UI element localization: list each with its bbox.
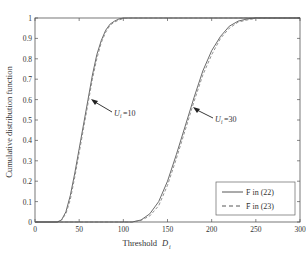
y-tick-label: 0.8 bbox=[23, 55, 33, 64]
x-tick-label: 50 bbox=[75, 225, 83, 234]
legend: F in (22) F̄ in (23) bbox=[216, 182, 295, 215]
x-axis-label: Threshold D i bbox=[123, 238, 171, 250]
y-tick-label: 1 bbox=[28, 14, 32, 23]
y-tick-label: 0.4 bbox=[23, 136, 33, 145]
annotation-u30: U i =30 bbox=[193, 107, 237, 125]
annotation-u10: U i =10 bbox=[91, 99, 136, 119]
y-tick-label: 0.3 bbox=[23, 157, 33, 166]
x-axis-title: Threshold bbox=[123, 238, 158, 248]
cdf-line-chart: 00.10.20.30.40.50.60.70.80.91 0501001502… bbox=[0, 0, 306, 257]
x-tick-label: 300 bbox=[294, 225, 306, 234]
y-tick-label: 0.7 bbox=[23, 75, 33, 84]
annotations: U i =10 U i =30 bbox=[91, 99, 237, 125]
x-axis-symbol: D bbox=[161, 238, 169, 248]
x-tick-label: 150 bbox=[162, 225, 174, 234]
legend-label-dashed: F̄ in (23) bbox=[246, 202, 274, 211]
arrow-head-icon bbox=[193, 107, 200, 113]
arrow-head-icon bbox=[91, 99, 98, 105]
y-axis-label: Cumulative distribution function bbox=[4, 66, 14, 178]
annotation-label-sub: i bbox=[120, 113, 122, 119]
arrow-line bbox=[197, 110, 213, 118]
y-tick-label: 0.5 bbox=[23, 116, 33, 125]
x-tick-label: 200 bbox=[206, 225, 218, 234]
y-tick-label: 0.2 bbox=[23, 177, 33, 186]
y-tick-label: 0.6 bbox=[23, 96, 33, 105]
x-tick-label: 100 bbox=[118, 225, 130, 234]
x-tick-label: 0 bbox=[33, 225, 37, 234]
arrow-line bbox=[95, 102, 112, 112]
y-tick-label: 0.9 bbox=[23, 34, 33, 43]
y-tick-label: 0 bbox=[28, 218, 32, 227]
annotation-label-rest: =10 bbox=[123, 109, 136, 118]
y-tick-label: 0.1 bbox=[23, 198, 33, 207]
x-tick-label: 250 bbox=[250, 225, 262, 234]
y-axis-title: Cumulative distribution function bbox=[4, 66, 14, 178]
annotation-label-sub: i bbox=[221, 119, 223, 125]
legend-label-solid: F in (22) bbox=[246, 188, 274, 197]
x-axis-subscript: i bbox=[169, 244, 171, 250]
annotation-label-rest: =30 bbox=[224, 115, 237, 124]
